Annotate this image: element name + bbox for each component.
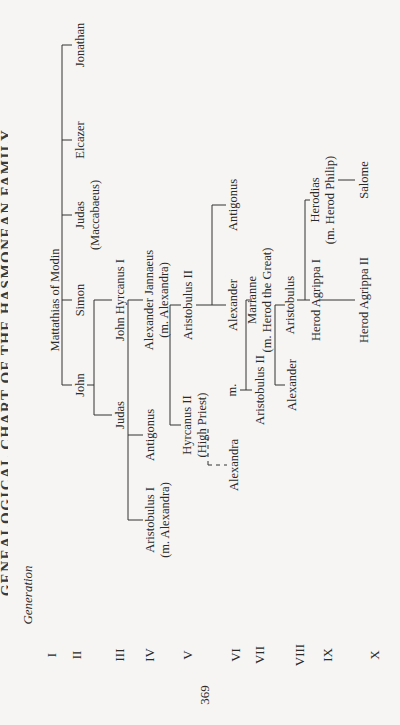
person-salome: Salome [357,161,372,199]
person-name: Salome [357,161,371,199]
person-note: (Maccabaeus) [88,180,103,250]
family-tree-connectors [0,0,400,725]
person-name: Elcazer [73,121,87,158]
person-note: (m. Alexandra) [158,482,173,558]
person-name: Aristobulus II [181,270,195,340]
person-hyrcanus-ii: Hyrcanus II (High Priest) [180,393,210,458]
person-name: Aristobulus II [253,355,267,425]
person-name: Judas [113,401,127,429]
person-name: Herodias [308,156,323,245]
person-name: Alexander Jannaeus [142,250,157,350]
person-antigonus-vi: Antigonus [226,179,241,231]
person-herod-agrippa-i: Herod Agrippa I [309,259,324,341]
person-aristobulus-i: Aristobulus I (m. Alexandra) [143,482,173,558]
person-alexander-vi: Alexander [226,279,241,331]
person-name: Alexander [226,279,240,331]
married-label: m. [225,384,239,397]
person-alexandra: Alexandra [227,439,242,491]
person-aristobulus-viii: Aristobulus [283,276,298,334]
person-herod-agrippa-ii: Herod Agrippa II [357,257,372,343]
person-note: (m. Alexandra) [157,250,172,350]
person-jonathan: Jonathan [73,23,88,67]
person-john-hyrcanus-i: John Hyrcanus I [113,259,128,341]
person-name: Alexandra [227,439,241,491]
person-name: Simon [73,284,87,317]
person-judas-maccabaeus: Judas (Maccabaeus) [73,180,103,250]
person-note: (High Priest) [195,393,210,458]
marriage-marker: m. [225,384,240,397]
person-judas: Judas [113,401,128,429]
person-note: (m. Herod the Great) [260,248,275,353]
person-name: Antigonus [226,179,240,231]
person-john: John [73,373,88,397]
person-herodias: Herodias (m. Herod Philip) [308,156,338,245]
person-mattathias: Mattathias of Modin [48,249,63,352]
person-name: Herod Agrippa I [309,259,323,341]
person-aristobulus-ii-v: Aristobulus II [181,270,196,340]
person-name: Marianne [245,248,260,353]
person-alexander-viii: Alexander [285,359,300,411]
person-name: Judas [73,180,88,250]
person-marianne: Marianne (m. Herod the Great) [245,248,275,353]
person-name: Antigonus [143,409,157,461]
person-name: Jonathan [73,23,87,67]
person-antigonus-iv: Antigonus [143,409,158,461]
person-alexander-jannaeus: Alexander Jannaeus (m. Alexandra) [142,250,172,350]
person-name: Aristobulus [283,276,297,334]
person-name: John Hyrcanus I [113,259,127,341]
person-aristobulus-ii-vii: Aristobulus II [253,355,268,425]
person-note: (m. Herod Philip) [323,156,338,245]
person-name: John [73,373,87,397]
person-name: Alexander [285,359,299,411]
person-simon: Simon [73,284,88,317]
person-elcazer: Elcazer [73,121,88,158]
person-name: Aristobulus I [143,482,158,558]
person-name: Hyrcanus II [180,393,195,458]
person-name: Mattathias of Modin [48,249,62,352]
person-name: Herod Agrippa II [357,257,371,343]
rotated-page: GENEALOGICAL CHART OF THE HASMONEAN FAMI… [0,0,400,725]
